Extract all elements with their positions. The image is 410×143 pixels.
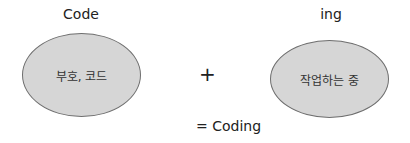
left-title: Code	[50, 6, 112, 22]
left-ellipse: 부호, 코드	[22, 33, 141, 117]
right-title: ing	[300, 6, 362, 22]
result-text: = Coding	[196, 118, 261, 134]
left-ellipse-label: 부호, 코드	[56, 67, 108, 84]
right-ellipse: 작업하는 중	[270, 40, 389, 118]
right-ellipse-label: 작업하는 중	[300, 71, 359, 88]
plus-operator: +	[199, 62, 216, 86]
